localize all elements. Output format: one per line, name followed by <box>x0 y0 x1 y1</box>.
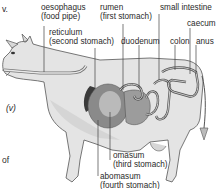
label-duodenum: duodenum <box>121 37 160 46</box>
label-caecum: caecum <box>187 19 216 28</box>
label-rumen: rumen (first stomach) <box>100 3 152 21</box>
label-omasum: omasum (third stomach) <box>113 151 168 169</box>
label-anus: anus <box>196 37 214 46</box>
cow-horn <box>22 34 28 42</box>
label-reticulum: reticulum (second stomach) <box>49 28 114 46</box>
cow-digestive-diagram: v. (v) of oesophagus (food pipe) reticul… <box>0 0 216 189</box>
label-small-intestine: small intestine <box>160 3 212 12</box>
cow-eye <box>11 52 15 54</box>
fragment-bottom: of <box>2 155 9 165</box>
marker-v: (v) <box>6 103 16 113</box>
cow-udder <box>150 142 166 151</box>
label-oesophagus: oesophagus (food pipe) <box>41 3 86 21</box>
label-abomasum: abomasum (fourth stomach) <box>100 172 160 189</box>
label-colon: colon <box>170 37 190 46</box>
fragment-top: v. <box>2 4 8 14</box>
